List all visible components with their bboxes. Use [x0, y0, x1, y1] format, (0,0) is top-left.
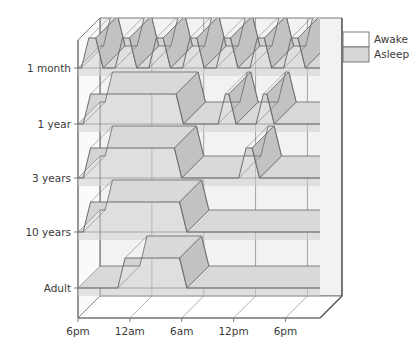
x-axis-label: 12am — [115, 325, 145, 337]
x-axis-label: 12pm — [218, 325, 248, 337]
chart-canvas: 1 month1 year3 years10 yearsAdult6pm12am… — [0, 0, 415, 358]
chart-legend: AwakeAsleep — [343, 32, 409, 62]
legend-swatch-asleep — [343, 47, 369, 62]
floor — [78, 296, 342, 318]
x-axis-label: 6am — [170, 325, 193, 337]
y-axis-label: 1 year — [38, 118, 72, 130]
y-axis-label: 1 month — [27, 62, 71, 74]
legend-label-awake: Awake — [374, 33, 408, 45]
x-axis-label: 6pm — [66, 325, 90, 337]
y-axis-label: 10 years — [25, 226, 71, 238]
y-axis-label: 3 years — [32, 172, 71, 184]
legend-swatch-awake — [343, 32, 369, 47]
sleep-cycle-chart: 1 month1 year3 years10 yearsAdult6pm12am… — [0, 0, 415, 358]
legend-label-asleep: Asleep — [374, 48, 409, 60]
x-axis-label: 6pm — [274, 325, 298, 337]
y-axis-label: Adult — [44, 282, 71, 294]
